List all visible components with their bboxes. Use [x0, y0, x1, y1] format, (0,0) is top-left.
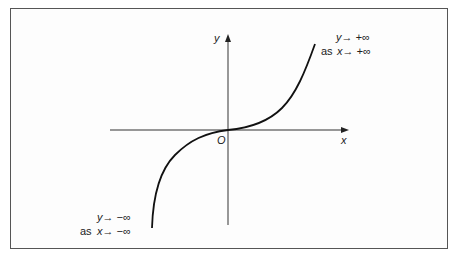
annotation-top-right-line1: y→ +∞: [336, 31, 370, 43]
annotation-top-right-line2: x→ +∞: [337, 45, 371, 57]
annotation-bottom-left-as: as: [80, 225, 92, 237]
function-curve: [152, 44, 315, 228]
y-axis-arrow-icon: [225, 34, 231, 42]
x-axis-label: x: [341, 134, 347, 146]
origin-label: O: [217, 134, 226, 146]
x-axis-arrow-icon: [341, 127, 349, 133]
graph-canvas: [0, 0, 457, 258]
annotation-top-right-as: as: [321, 45, 333, 57]
annotation-bottom-left-line1: y→ −∞: [97, 211, 131, 223]
y-axis-label: y: [214, 32, 220, 44]
annotation-bottom-left-line2: x→ −∞: [97, 225, 131, 237]
